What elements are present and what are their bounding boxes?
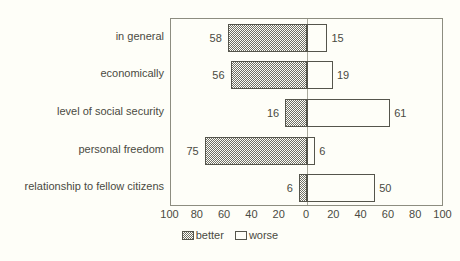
bar-worse: [307, 99, 390, 127]
bar-value-worse: 50: [379, 183, 391, 194]
bar-row: 650: [171, 174, 442, 202]
bar-row: 5815: [171, 24, 442, 52]
bar-value-worse: 19: [337, 70, 349, 81]
legend-swatch-icon: [182, 231, 194, 240]
bar-worse: [307, 61, 333, 89]
chart-legend: betterworse: [0, 230, 460, 241]
x-tick-label: 20: [327, 208, 339, 220]
x-tick-label: 40: [354, 208, 366, 220]
bar-row: 5619: [171, 61, 442, 89]
bar-value-worse: 6: [319, 145, 325, 156]
category-label: personal freedom: [0, 144, 164, 155]
x-tick-label: 40: [245, 208, 257, 220]
legend-label: worse: [249, 230, 278, 241]
legend-item[interactable]: better: [182, 230, 224, 241]
bar-value-worse: 61: [394, 108, 406, 119]
bar-value-better: 58: [210, 32, 222, 43]
x-tick-label: 80: [191, 208, 203, 220]
x-tick-label: 60: [218, 208, 230, 220]
category-label: economically: [0, 68, 164, 79]
category-label: relationship to fellow citizens: [0, 181, 164, 192]
category-label: in general: [0, 31, 164, 42]
bar-better: [228, 24, 307, 52]
x-tick-label: 20: [273, 208, 285, 220]
category-axis-labels: in generaleconomicallylevel of social se…: [0, 18, 164, 206]
bar-worse: [307, 137, 315, 165]
bar-worse: [307, 24, 327, 52]
legend-label: better: [196, 230, 224, 241]
x-tick-label: 60: [382, 208, 394, 220]
plot-area: 581556191661756650: [170, 18, 443, 206]
bar-worse: [307, 174, 375, 202]
bar-better: [205, 137, 307, 165]
bar-value-better: 56: [212, 70, 224, 81]
x-tick-label: 100: [433, 208, 451, 220]
bar-row: 756: [171, 137, 442, 165]
x-tick-label: 100: [160, 208, 178, 220]
x-tick-label: 80: [409, 208, 421, 220]
category-label: level of social security: [0, 106, 164, 117]
bar-better: [231, 61, 307, 89]
bar-value-worse: 15: [331, 32, 343, 43]
bar-row: 1661: [171, 99, 442, 127]
x-axis-tick-labels: 10080604020020406080100: [170, 208, 443, 224]
bar-better: [299, 174, 307, 202]
legend-item[interactable]: worse: [235, 230, 278, 241]
legend-swatch-icon: [235, 231, 247, 240]
bar-better: [285, 99, 307, 127]
bar-value-better: 16: [267, 108, 279, 119]
diverging-bar-chart: in generaleconomicallylevel of social se…: [0, 0, 460, 261]
bar-value-better: 6: [287, 183, 293, 194]
x-tick-label: 0: [303, 208, 309, 220]
bar-value-better: 75: [186, 145, 198, 156]
